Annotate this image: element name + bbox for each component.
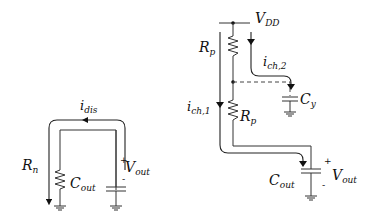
plus-sign: + <box>324 156 332 166</box>
label-idis: idis <box>80 98 98 115</box>
label-vout-right: Vout <box>332 167 357 185</box>
arrowhead-icon <box>216 102 224 108</box>
capacitor-cy <box>282 97 298 116</box>
resistor-rn <box>55 152 65 200</box>
resistor-rp-top <box>228 23 238 82</box>
label-vdd: VDD <box>255 10 280 28</box>
resistor-rp-bottom <box>228 82 311 169</box>
capacitor-cout-right <box>301 169 321 200</box>
minus-sign: - <box>122 174 125 184</box>
label-cout-right: Cout <box>269 172 295 190</box>
label-ich1: ich,1 <box>187 99 211 116</box>
label-cout-left: Cout <box>70 175 96 193</box>
arrowhead-icon <box>82 117 88 123</box>
left-wire <box>60 130 116 190</box>
ground-icon <box>110 206 122 210</box>
dashed-connection <box>233 82 290 96</box>
arrowhead-icon <box>287 84 295 90</box>
minus-sign: - <box>322 180 325 190</box>
arrowhead-icon <box>247 39 255 45</box>
label-rp-top: Rp <box>198 39 216 57</box>
label-ich2: ich,2 <box>263 54 287 71</box>
arrowhead-icon <box>299 161 307 167</box>
charge-circuit: VDD Rp ich,2 Cy ich,1 Rp + Vout - Cout <box>187 10 357 200</box>
label-rn: Rn <box>21 157 39 175</box>
ground-icon <box>54 200 66 210</box>
label-rp-bottom: Rp <box>239 108 257 126</box>
label-vout-left: Vout <box>125 159 150 177</box>
discharge-circuit: idis Rn Cout + Vout - <box>21 98 150 210</box>
capacitor-cout <box>106 130 126 206</box>
current-arrow-ich2 <box>251 32 291 86</box>
label-cy: Cy <box>300 91 317 109</box>
